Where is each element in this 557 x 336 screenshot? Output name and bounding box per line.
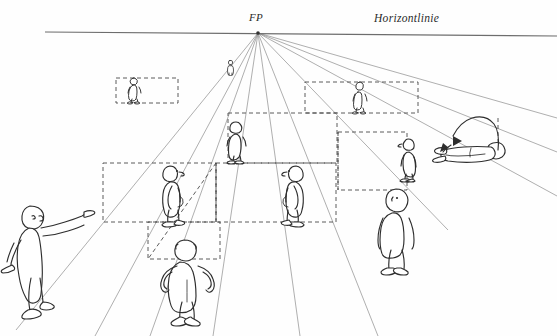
box-mid-right — [338, 132, 407, 190]
vanishing-point-marker — [256, 31, 260, 35]
figure-tiny-right — [352, 82, 367, 114]
horizon-line-label: Horizontlinie — [374, 12, 439, 24]
figure-hands-on-hips-front — [161, 240, 215, 326]
perspective-diagram: FP Horizontlinie — [0, 0, 557, 336]
horizon-line — [45, 32, 557, 36]
figure-standing-right — [378, 189, 414, 275]
figure-small-center — [227, 122, 246, 164]
box-mid-left — [103, 163, 216, 222]
scene-svg — [0, 0, 557, 336]
figure-pointer-left — [1, 206, 95, 319]
ray-6 — [258, 33, 378, 336]
figures-group — [1, 61, 505, 327]
ray-8 — [258, 33, 557, 152]
ray-4 — [213, 33, 258, 336]
box-far-left — [116, 78, 178, 103]
figure-minute-center — [228, 61, 234, 76]
figure-profile-right-far — [398, 139, 416, 182]
figure-profile-left — [281, 166, 304, 227]
figure-tiny-left — [127, 78, 141, 104]
ray-10 — [258, 33, 557, 118]
convergence-rays — [16, 33, 557, 336]
vanishing-point-label: FP — [249, 11, 263, 23]
